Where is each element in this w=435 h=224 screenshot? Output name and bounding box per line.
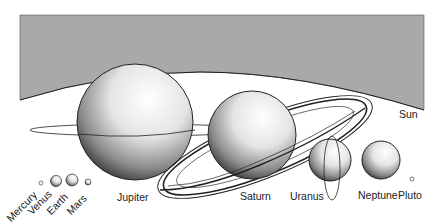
uranus-label: Uranus [290,191,324,202]
venus-sphere [51,176,62,187]
uranus-sphere [309,139,351,181]
saturn-sphere [208,91,296,179]
jupiter-label: Jupiter [117,192,149,203]
pluto-label: Pluto [398,190,422,201]
neptune-sphere [362,141,400,179]
mercury-sphere [39,181,43,185]
sun-shape [20,15,424,110]
earth-sphere [66,174,78,186]
sun-label: Sun [399,109,418,120]
saturn-label: Saturn [240,191,271,202]
pluto-sphere [410,177,414,181]
neptune-label: Neptune [358,190,398,201]
mars-sphere [85,179,91,185]
